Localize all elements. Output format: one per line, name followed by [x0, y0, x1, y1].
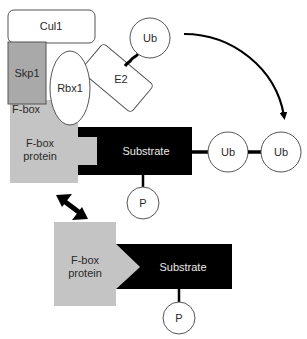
fbox-free-label-2: protein — [68, 267, 102, 279]
fbox-protein-label-1: F-box — [26, 137, 55, 149]
thioester-link — [125, 54, 138, 66]
phospho-bound-label: P — [139, 197, 146, 209]
fbox-domain-label: F-box — [12, 103, 41, 115]
substrate-bound-label: Substrate — [122, 145, 169, 157]
skp1-box: Skp1 — [8, 42, 46, 104]
binding-equilibrium-arrow — [56, 194, 88, 220]
cul1-box: Cul1 — [8, 10, 95, 43]
phospho-bound: P — [127, 175, 159, 219]
skp1-label: Skp1 — [14, 67, 39, 79]
phospho-free: P — [163, 289, 195, 334]
phospho-free-label: P — [175, 312, 182, 324]
substrate-free-label: Substrate — [159, 261, 206, 273]
fbox-protein-label-2: protein — [23, 150, 57, 162]
ub-chain-1-label: Ub — [221, 146, 235, 158]
e2-ub-label: Ub — [143, 32, 157, 44]
rbx1-label: Rbx1 — [57, 82, 83, 94]
scf-complex-diagram: Cul1 F-box F-box protein Skp1 E2 Rbx1 Ub… — [0, 0, 307, 339]
fbox-free-label-1: F-box — [71, 254, 100, 266]
ub-chain-2-label: Ub — [274, 146, 288, 158]
cul1-label: Cul1 — [40, 20, 63, 32]
rbx1-ellipse: Rbx1 — [50, 51, 90, 125]
e2-ub: Ub — [125, 18, 170, 66]
ub-chain: Ub Ub — [192, 132, 301, 172]
ub-transfer-arrow — [184, 34, 284, 116]
e2-label: E2 — [114, 73, 127, 85]
fbox-protein-free: F-box protein — [54, 222, 140, 306]
